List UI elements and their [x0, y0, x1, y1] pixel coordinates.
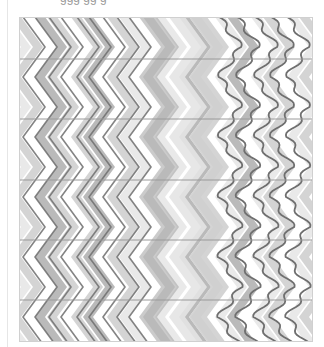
chevron-pattern-figure [19, 17, 313, 342]
pattern-canvas [19, 17, 313, 342]
page-border [7, 0, 8, 347]
clipped-caption: ggg gg g [60, 0, 107, 5]
